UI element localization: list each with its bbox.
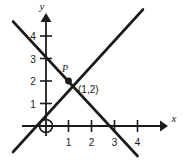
point-p-label: P (61, 63, 68, 74)
coordinate-plane-figure: y x 1 2 3 4 1 2 3 4 P (1,2) (0, 0, 185, 168)
x-axis-label: x (171, 112, 177, 124)
x-tick-label-4: 4 (135, 137, 141, 148)
y-tick-label-3: 3 (30, 54, 36, 65)
x-tick-label-2: 2 (89, 137, 95, 148)
y-axis-label: y (39, 0, 45, 12)
y-axis-arrow (41, 13, 52, 22)
y-tick-label-1: 1 (30, 99, 36, 110)
x-axis-arrow (160, 121, 168, 132)
point-coordinates-label: (1,2) (78, 84, 99, 95)
x-tick-label-1: 1 (66, 137, 72, 148)
y-tick-label-4: 4 (30, 31, 36, 42)
intersection-point-dot (65, 78, 72, 85)
y-tick-label-2: 2 (30, 76, 36, 87)
x-tick-label-3: 3 (112, 137, 118, 148)
